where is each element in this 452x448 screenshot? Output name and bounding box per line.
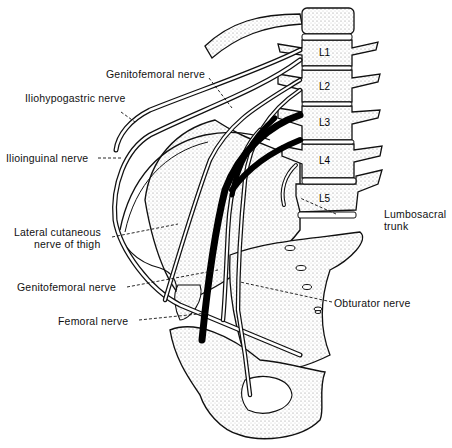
label-genitofemoral-bottom: Genitofemoral nerve xyxy=(17,281,116,293)
label-femoral: Femoral nerve xyxy=(58,315,128,327)
label-lateral-cutaneous-2: nerve of thigh xyxy=(34,238,100,250)
label-lateral-cutaneous-1: Lateral cutaneous xyxy=(14,226,101,238)
label-lumbosacral-2: trunk xyxy=(384,220,408,232)
vertebra-label-l4: L4 xyxy=(319,155,331,166)
vertebra-label-l3: L3 xyxy=(319,117,331,128)
label-ilioinguinal: Ilioinguinal nerve xyxy=(6,152,88,164)
vertebra-label-l5: L5 xyxy=(319,193,331,204)
vertebra-label-l2: L2 xyxy=(319,81,331,92)
label-genitofemoral-top: Genitofemoral nerve xyxy=(106,68,205,80)
label-obturator: Obturator nerve xyxy=(334,297,411,309)
vertebra-label-l1: L1 xyxy=(319,47,331,58)
label-iliohypogastric: Iliohypogastric nerve xyxy=(25,92,126,104)
label-lumbosacral-1: Lumbosacral xyxy=(384,208,446,220)
